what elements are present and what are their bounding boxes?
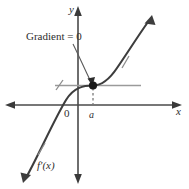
gradient-annotation-label: Gradient = 0 <box>26 31 82 42</box>
function-curve <box>27 22 148 176</box>
x-axis-label: x <box>176 106 181 117</box>
curve-tick-lower-icon <box>38 143 45 155</box>
y-axis-bottom-arrow-icon <box>74 174 82 184</box>
curve-bottom-arrow-icon <box>21 173 32 184</box>
y-axis-label: y <box>69 4 74 15</box>
x-value-a-label: a <box>89 110 94 120</box>
stationary-point-marker <box>89 81 97 89</box>
origin-label: 0 <box>64 108 70 119</box>
curve-top-arrow-icon <box>145 15 156 25</box>
annotation-leader-line <box>73 44 90 80</box>
graph-canvas <box>0 0 189 189</box>
calculus-graph-figure: Gradient = 0 y x 0 a f'(x) <box>0 0 189 189</box>
function-curve-label: f'(x) <box>37 160 55 171</box>
y-axis-top-arrow-icon <box>74 6 82 16</box>
x-axis-left-arrow-icon <box>5 101 15 109</box>
